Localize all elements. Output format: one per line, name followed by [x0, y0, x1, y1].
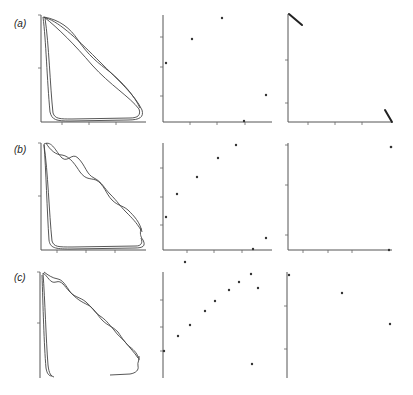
panel-b-middle	[160, 143, 272, 253]
panel-c-middle	[160, 261, 259, 378]
panel-a-right	[285, 14, 392, 125]
panel-c-left	[37, 272, 139, 378]
panel-a-middle	[160, 15, 272, 125]
panel-a-left	[38, 15, 146, 125]
panel-b-right	[285, 143, 392, 253]
panel-b-left	[38, 143, 146, 253]
figure-canvas	[0, 0, 413, 395]
panel-c-right	[284, 272, 391, 378]
